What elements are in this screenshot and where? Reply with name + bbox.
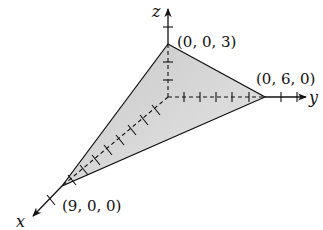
x-axis: [33, 186, 62, 216]
y-axis-label: y: [308, 88, 319, 107]
y-intercept-label: (0, 6, 0): [256, 70, 315, 88]
x-intercept-label: (9, 0, 0): [62, 197, 121, 215]
z-axis-label: z: [151, 2, 161, 21]
3d-plane-diagram: z y x (0, 0, 3) (0, 6, 0) (9, 0, 0): [0, 0, 323, 230]
x-axis-label: x: [16, 212, 25, 230]
z-intercept-label: (0, 0, 3): [177, 33, 236, 51]
plane-triangle: [62, 44, 265, 186]
